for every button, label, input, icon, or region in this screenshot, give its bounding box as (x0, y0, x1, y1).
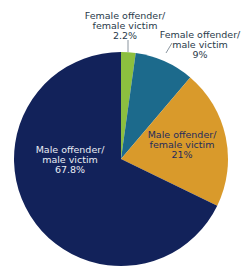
label-female-offender-female-victim: Female offender/ female victim 2.2% (85, 10, 166, 41)
label-value: 9% (192, 49, 207, 60)
label-female-offender-male-victim: Female offender/ male victim 9% (160, 29, 241, 60)
label-value: 21% (171, 149, 192, 160)
label-value: 2.2% (113, 30, 137, 41)
leader-line-female-male (166, 43, 172, 53)
label-value: 67.8% (55, 164, 85, 175)
pie-chart: Female offender/ female victim 2.2% Fema… (0, 0, 247, 278)
